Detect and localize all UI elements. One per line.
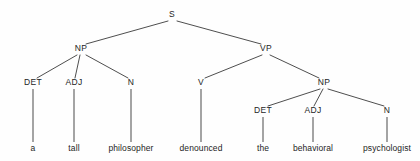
leaf-word-denounced: denounced <box>180 143 223 153</box>
syntax-tree-canvas: S NP VP DET ADJ N V NP DET ADJ N a tall … <box>0 0 420 161</box>
edge-np-object-det <box>268 89 320 106</box>
edge-np-object-n <box>328 89 384 106</box>
leaf-word-philosopher: philosopher <box>108 143 153 153</box>
leaf-word-psychologist: psychologist <box>363 143 412 153</box>
tree-leaf-labels: a tall philosopher denounced the behavio… <box>31 143 412 153</box>
node-n-right: N <box>384 105 390 115</box>
tree-edges <box>37 21 384 106</box>
node-adj-right: ADJ <box>305 105 322 115</box>
node-adj-left: ADJ <box>66 77 83 87</box>
node-np-subject: NP <box>75 43 87 53</box>
edge-np-subject-det <box>37 55 77 78</box>
edge-s-np-subject <box>86 21 168 44</box>
leaf-word-the: the <box>257 143 269 153</box>
edge-s-vp <box>177 21 261 44</box>
tree-stems <box>33 89 387 142</box>
edge-np-subject-n <box>86 55 128 78</box>
node-s: S <box>169 9 175 19</box>
leaf-word-tall: tall <box>68 143 79 153</box>
node-np-object: NP <box>318 77 330 87</box>
syntax-tree-figure: S NP VP DET ADJ N V NP DET ADJ N a tall … <box>0 0 420 161</box>
leaf-word-behavioral: behavioral <box>293 143 333 153</box>
node-det-left: DET <box>24 77 42 87</box>
node-det-right: DET <box>254 105 272 115</box>
node-v: V <box>198 77 204 87</box>
tree-node-labels: S NP VP DET ADJ N V NP DET ADJ N <box>24 9 390 115</box>
edge-np-subject-adj <box>75 55 80 78</box>
edge-vp-v <box>205 55 262 78</box>
node-vp: VP <box>260 43 272 53</box>
leaf-word-a: a <box>31 143 36 153</box>
node-n-left: N <box>128 77 134 87</box>
edge-vp-np-object <box>270 55 319 78</box>
edge-np-object-adj <box>314 89 323 106</box>
